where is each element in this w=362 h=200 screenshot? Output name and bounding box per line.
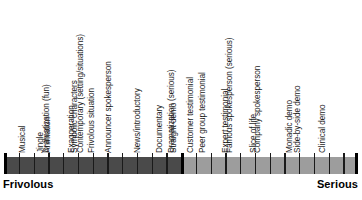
tick-mark	[19, 153, 20, 174]
anchor-label-frivolous: Frivolous	[3, 178, 53, 190]
tick-mark	[329, 153, 330, 174]
category-label: Frivolous situation	[88, 88, 97, 153]
category-label: News/introductory	[132, 88, 141, 153]
category-label: Announcer spokesperson	[104, 61, 113, 153]
category-label: Peer group testimonial	[198, 72, 207, 153]
tick-mark	[299, 153, 300, 174]
tick-mark	[107, 153, 108, 174]
tick-mark	[181, 153, 184, 174]
tick-mark	[211, 153, 212, 174]
category-labels-strip: Comedy/funFamous spokesperson (fun)Music…	[0, 0, 362, 155]
tick-mark	[122, 153, 123, 174]
tick-mark	[355, 153, 358, 174]
tick-mark	[270, 153, 271, 174]
tick-mark	[137, 153, 138, 174]
tick-mark	[93, 153, 94, 174]
category-label-slot: Clinical demo	[343, 0, 358, 155]
tick-mark	[225, 153, 226, 174]
category-label: Famous spokesperson (serious)	[225, 38, 234, 154]
tick-mark	[255, 153, 256, 174]
category-label-slot: Comedy/fun	[4, 0, 19, 155]
category-label: Contemporary (setting/situations)	[76, 34, 85, 153]
category-label: Side-by-side demo	[293, 86, 302, 153]
tick-mark	[196, 153, 197, 174]
category-label-slot: Slice of life	[270, 0, 285, 155]
tick-mark	[343, 153, 344, 174]
anchor-label-serious: Serious	[317, 178, 358, 190]
tick-mark	[240, 153, 241, 174]
tick-mark	[34, 153, 35, 174]
category-label: Musical	[18, 126, 27, 153]
tick-mark	[152, 153, 153, 174]
tick-mark	[78, 153, 79, 174]
category-label-slot: Side-by-side demo	[329, 0, 344, 155]
tick-mark	[314, 153, 315, 174]
category-label: Dramatization (fun)	[42, 84, 51, 153]
tick-mark	[166, 153, 167, 174]
category-label: Clinical demo	[317, 105, 326, 154]
tick-mark	[48, 153, 49, 174]
tick-mark	[63, 153, 64, 174]
tick-mark	[284, 153, 285, 174]
tick-mark	[4, 153, 7, 174]
category-label: Customer testimonial	[186, 77, 195, 153]
category-label: Dramatization (serious)	[167, 70, 176, 153]
continuum-bar	[4, 157, 358, 174]
category-label: Company spokesperson	[254, 66, 263, 153]
frivolous-serious-continuum-chart: Comedy/funFamous spokesperson (fun)Music…	[0, 0, 362, 200]
category-label: Documentary	[155, 105, 164, 153]
